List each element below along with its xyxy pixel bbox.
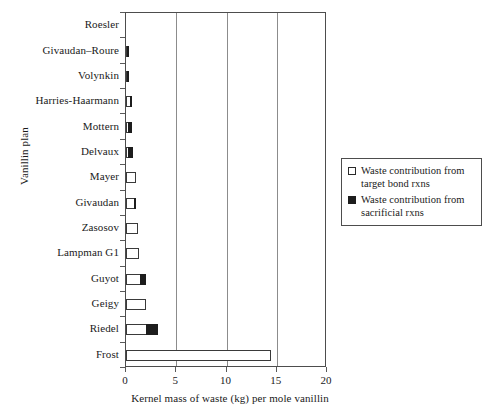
y-tick-mark — [120, 190, 125, 191]
y-tick-label-roesler: Roesler — [85, 19, 119, 30]
y-tick-mark — [120, 37, 125, 38]
y-tick-label-frost: Frost — [96, 349, 119, 360]
bar-group — [126, 248, 139, 259]
bar-segment-target-bond — [126, 248, 139, 259]
y-axis-title: Vanillin plan — [18, 96, 30, 216]
legend-entry-label: Waste contribution from sacrificial rxns — [361, 194, 465, 219]
bar-segment-target-bond — [126, 324, 147, 335]
y-tick-label-mayer: Mayer — [90, 171, 119, 182]
bar-group — [126, 350, 271, 361]
gridline-x-15 — [277, 13, 278, 366]
plot-area — [125, 12, 326, 367]
y-tick-label-harries-haarmann: Harries-Haarmann — [36, 95, 119, 106]
y-tick-mark — [120, 12, 125, 13]
x-tick-label: 10 — [211, 374, 241, 386]
bar-segment-sacrificial — [130, 96, 132, 107]
x-tick-mark — [276, 367, 277, 372]
gridline-x-5 — [176, 13, 177, 366]
bar-group — [126, 274, 146, 285]
bar-segment-sacrificial — [128, 122, 132, 133]
y-tick-label-givaudan: Givaudan — [75, 197, 119, 208]
y-tick-mark — [120, 164, 125, 165]
y-tick-label-delvaux: Delvaux — [81, 146, 119, 157]
y-tick-mark — [120, 342, 125, 343]
y-tick-mark — [120, 266, 125, 267]
y-tick-label-guyot: Guyot — [91, 273, 119, 284]
bar-row — [126, 241, 139, 266]
x-tick-label: 0 — [110, 374, 140, 386]
bar-row — [126, 114, 132, 139]
bar-segment-sacrificial — [127, 46, 129, 57]
legend-entry-target-bond: Waste contribution from target bond rxns — [348, 165, 476, 190]
legend-line-1: Waste contribution from — [361, 165, 465, 176]
bar-row — [126, 267, 146, 292]
bar-group — [126, 299, 146, 310]
x-tick-mark — [175, 367, 176, 372]
bar-group — [126, 71, 129, 82]
y-tick-label-givaudan-roure: Givaudan–Roure — [42, 45, 119, 56]
y-tick-label-lampman-g1: Lampman G1 — [57, 247, 119, 258]
bar-segment-target-bond — [126, 172, 136, 183]
bar-segment-sacrificial — [134, 198, 137, 209]
y-tick-label-mottern: Mottern — [83, 121, 119, 132]
legend-entry-label: Waste contribution from target bond rxns — [361, 165, 465, 190]
x-tick-label: 20 — [311, 374, 341, 386]
x-tick-label: 15 — [261, 374, 291, 386]
bar-segment-target-bond — [126, 299, 146, 310]
legend-line-2: target bond rxns — [361, 178, 430, 189]
bar-row — [126, 165, 136, 190]
x-tick-mark — [226, 367, 227, 372]
y-tick-mark — [120, 215, 125, 216]
y-tick-label-riedel: Riedel — [90, 323, 119, 334]
y-tick-label-volynkin: Volynkin — [78, 70, 119, 81]
y-tick-mark — [120, 88, 125, 89]
bar-group — [126, 96, 132, 107]
x-tick-mark — [326, 367, 327, 372]
bar-segment-target-bond — [126, 350, 271, 361]
bar-row — [126, 64, 129, 89]
y-tick-mark — [120, 240, 125, 241]
chart-legend: Waste contribution from target bond rxns… — [341, 158, 482, 226]
bar-segment-sacrificial — [146, 324, 158, 335]
bar-row — [126, 140, 133, 165]
bar-group — [126, 147, 133, 158]
bar-row — [126, 216, 138, 241]
x-axis-title: Kernel mass of waste (kg) per mole vanil… — [60, 392, 400, 404]
y-tick-mark — [120, 113, 125, 114]
bar-segment-target-bond — [126, 223, 138, 234]
bar-group — [126, 198, 136, 209]
y-tick-mark — [120, 367, 125, 368]
gridline-x-10 — [227, 13, 228, 366]
bar-group — [126, 46, 129, 57]
bar-row — [126, 191, 136, 216]
bar-row — [126, 317, 158, 342]
y-tick-mark — [120, 291, 125, 292]
bar-group — [126, 122, 132, 133]
legend-swatch-filled-icon — [348, 196, 356, 204]
x-tick-label: 5 — [160, 374, 190, 386]
y-tick-mark — [120, 63, 125, 64]
bar-group — [126, 324, 158, 335]
x-tick-mark — [125, 367, 126, 372]
y-tick-mark — [120, 316, 125, 317]
bar-row — [126, 292, 146, 317]
bar-row — [126, 38, 129, 63]
bar-segment-sacrificial — [128, 147, 133, 158]
legend-line-2: sacrificial rxns — [361, 207, 424, 218]
bar-group — [126, 223, 138, 234]
bar-segment-target-bond — [126, 274, 142, 285]
bar-group — [126, 172, 136, 183]
bar-row — [126, 89, 132, 114]
legend-swatch-open-icon — [348, 167, 356, 175]
bar-segment-sacrificial — [127, 71, 129, 82]
legend-line-1: Waste contribution from — [361, 194, 465, 205]
bar-segment-sacrificial — [140, 274, 146, 285]
y-tick-mark — [120, 139, 125, 140]
vanillin-waste-bar-chart: Vanillin plan Kernel mass of waste (kg) … — [0, 0, 490, 414]
y-tick-label-geigy: Geigy — [92, 298, 119, 309]
y-tick-label-zasosov: Zasosov — [82, 222, 119, 233]
bar-row — [126, 343, 271, 368]
legend-entry-sacrificial: Waste contribution from sacrificial rxns — [348, 194, 476, 219]
